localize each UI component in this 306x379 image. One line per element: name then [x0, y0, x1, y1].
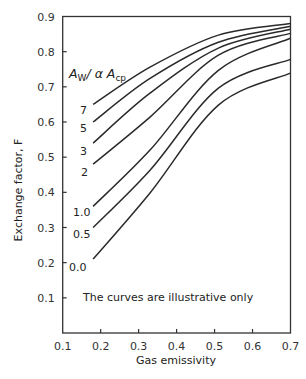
x-axis-title: Gas emissivity	[136, 354, 216, 367]
x-tick-label: 0.3	[130, 340, 148, 353]
x-tick-label: 0.2	[92, 340, 110, 353]
y-tick-label: 0.7	[37, 81, 55, 94]
curve-label: 7	[80, 104, 87, 117]
legend-title: AW/ α Acp	[68, 66, 126, 83]
y-tick-label: 0.8	[37, 46, 55, 59]
chart: 0.10.20.30.40.50.60.70.10.20.30.40.50.60…	[0, 0, 306, 379]
x-tick-label: 0.5	[206, 340, 224, 353]
y-axis-title: Exchange factor, F	[12, 139, 25, 242]
y-tick-label: 0.5	[37, 151, 55, 164]
curve-label: 0.5	[73, 228, 91, 241]
x-tick-label: 0.1	[54, 340, 72, 353]
y-tick-label: 0.4	[37, 186, 55, 199]
curve-label: 0.0	[69, 261, 87, 274]
curve-label: 1.0	[73, 206, 91, 219]
x-tick-label: 0.6	[244, 340, 262, 353]
y-tick-label: 0.6	[37, 116, 55, 129]
curve-label: 3	[80, 145, 87, 158]
y-tick-label: 0.9	[37, 11, 55, 24]
y-tick-label: 0.1	[37, 292, 55, 305]
x-tick-label: 0.4	[168, 340, 186, 353]
y-tick-label: 0.2	[37, 257, 55, 270]
plot-frame	[63, 17, 291, 334]
curve-label: 2	[81, 166, 88, 179]
x-tick-label: 0.7	[282, 340, 300, 353]
curve-label: 5	[80, 122, 87, 135]
curve-0-0	[93, 73, 290, 259]
y-tick-label: 0.3	[37, 222, 55, 235]
annotation-text: The curves are illustrative only	[82, 291, 254, 304]
